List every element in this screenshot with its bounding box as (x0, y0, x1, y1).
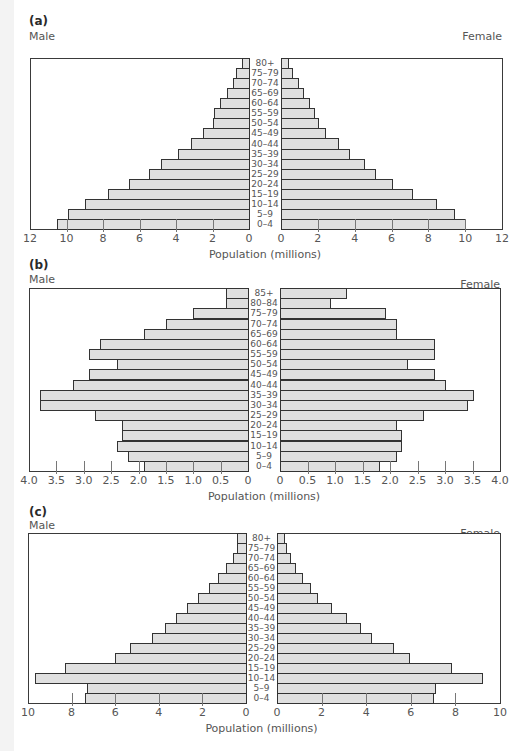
axis-tick-label: 4.0 (14, 474, 44, 487)
age-group-label: 0–4 (245, 219, 285, 229)
male-label: Male (29, 519, 55, 532)
axis-tick-label: 6 (377, 232, 407, 245)
age-group-label: 85+ (244, 288, 284, 298)
male-gridline (72, 693, 73, 706)
age-group-label: 40–44 (242, 613, 282, 623)
age-group-label: 35–39 (245, 149, 285, 159)
axis-tick-label: 0 (234, 232, 264, 245)
male-label: Male (29, 30, 55, 43)
age-group-label: 5–9 (242, 683, 282, 693)
female-gridline (455, 693, 456, 706)
axis-tick-label: 0.5 (293, 474, 323, 487)
male-bar (85, 693, 247, 704)
axis-tick-label: 2.5 (403, 474, 433, 487)
axis-tick-label: 6 (100, 706, 130, 719)
axis-tick-label: 4.0 (485, 474, 515, 487)
male-gridline (140, 219, 141, 232)
axis-tick-label: 8 (57, 706, 87, 719)
age-group-label: 70–74 (245, 78, 285, 88)
axis-tick-label: 2.5 (96, 474, 126, 487)
male-gridline (159, 693, 160, 706)
age-group-label: 35–39 (244, 390, 284, 400)
axis-tick-label: 4 (161, 232, 191, 245)
female-bar (281, 219, 466, 230)
age-group-label: 30–34 (244, 400, 284, 410)
axis-tick-label: 10 (52, 232, 82, 245)
male-label: Male (29, 273, 55, 286)
axis-tick-label: 8 (440, 706, 470, 719)
male-gridline (56, 461, 57, 474)
female-gridline (363, 461, 364, 474)
age-group-label: 10–14 (242, 673, 282, 683)
age-group-label: 45–49 (244, 369, 284, 379)
axis-tick-label: 2.0 (375, 474, 405, 487)
male-gridline (202, 693, 203, 706)
axis-tick-label: 4 (351, 706, 381, 719)
axis-tick-label: 2.0 (124, 474, 154, 487)
male-gridline (213, 219, 214, 232)
age-group-label: 70–74 (242, 553, 282, 563)
axis-tick-label: 4 (144, 706, 174, 719)
female-gridline (418, 461, 419, 474)
male-gridline (67, 219, 68, 232)
female-gridline (465, 219, 466, 232)
age-group-label: 0–4 (244, 461, 284, 471)
x-axis-title: Population (millions) (165, 248, 365, 261)
age-group-label: 25–29 (242, 643, 282, 653)
age-group-label: 55–59 (242, 583, 282, 593)
male-gridline (139, 461, 140, 474)
axis-tick-label: 0 (233, 474, 263, 487)
age-group-label: 60–64 (244, 339, 284, 349)
age-group-label: 30–34 (245, 159, 285, 169)
axis-tick-label: 2 (303, 232, 333, 245)
axis-tick-label: 6 (125, 232, 155, 245)
axis-tick-label: 0 (231, 706, 261, 719)
panel-label: (b) (29, 258, 49, 272)
age-group-label: 20–24 (244, 420, 284, 430)
age-group-label: 80+ (242, 533, 282, 543)
age-group-label: 40–44 (245, 139, 285, 149)
axis-tick-label: 6 (396, 706, 426, 719)
axis-tick-label: 10 (13, 706, 43, 719)
age-group-label: 55–59 (244, 349, 284, 359)
male-gridline (103, 219, 104, 232)
age-group-label: 45–49 (245, 128, 285, 138)
female-gridline (473, 461, 474, 474)
axis-tick-label: 3.5 (458, 474, 488, 487)
age-group-label: 25–29 (244, 410, 284, 420)
axis-tick-label: 1.5 (348, 474, 378, 487)
age-group-label: 20–24 (242, 653, 282, 663)
axis-tick-label: 1.0 (320, 474, 350, 487)
x-axis-title: Population (millions) (162, 722, 362, 735)
female-gridline (308, 461, 309, 474)
age-group-label: 60–64 (245, 98, 285, 108)
age-group-label: 75–79 (242, 543, 282, 553)
female-gridline (445, 461, 446, 474)
female-gridline (366, 693, 367, 706)
female-label: Female (462, 30, 502, 43)
female-gridline (318, 219, 319, 232)
age-group-label: 75–79 (244, 308, 284, 318)
age-group-label: 5–9 (245, 209, 285, 219)
axis-tick-label: 10 (450, 232, 480, 245)
male-gridline (111, 461, 112, 474)
axis-tick-label: 3.0 (430, 474, 460, 487)
age-group-label: 20–24 (245, 179, 285, 189)
age-group-label: 15–19 (242, 663, 282, 673)
age-group-label: 75–79 (245, 68, 285, 78)
age-group-label: 65–69 (242, 563, 282, 573)
age-group-label: 50–54 (244, 359, 284, 369)
male-bar (144, 461, 249, 472)
female-gridline (428, 219, 429, 232)
axis-tick-label: 2 (307, 706, 337, 719)
female-gridline (392, 219, 393, 232)
female-bar (280, 461, 380, 472)
x-axis-title: Population (millions) (164, 490, 364, 503)
age-group-label: 60–64 (242, 573, 282, 583)
age-group-label: 0–4 (242, 693, 282, 703)
age-group-label: 80–84 (244, 298, 284, 308)
axis-tick-label: 1.0 (178, 474, 208, 487)
age-group-label: 80+ (245, 58, 285, 68)
panel-label: (c) (29, 505, 47, 519)
axis-tick-label: 1.5 (151, 474, 181, 487)
